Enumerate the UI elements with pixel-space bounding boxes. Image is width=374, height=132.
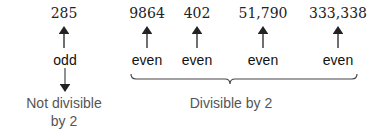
label-even-2: even <box>182 52 212 68</box>
number-51790: 51,790 <box>239 5 288 21</box>
caption-not-divisible-line1: Not divisible <box>26 94 101 112</box>
label-odd: odd <box>53 52 76 68</box>
caption-divisible: Divisible by 2 <box>190 94 272 112</box>
label-even-4: even <box>323 52 353 68</box>
number-402: 402 <box>184 5 211 21</box>
caption-not-divisible-line2: by 2 <box>26 112 101 130</box>
number-9864: 9864 <box>129 5 165 21</box>
label-even-3: even <box>248 52 278 68</box>
label-even-1: even <box>132 52 162 68</box>
number-333338: 333,338 <box>309 5 367 21</box>
brace <box>131 74 357 84</box>
number-285: 285 <box>51 5 78 21</box>
caption-not-divisible: Not divisible by 2 <box>26 94 101 130</box>
